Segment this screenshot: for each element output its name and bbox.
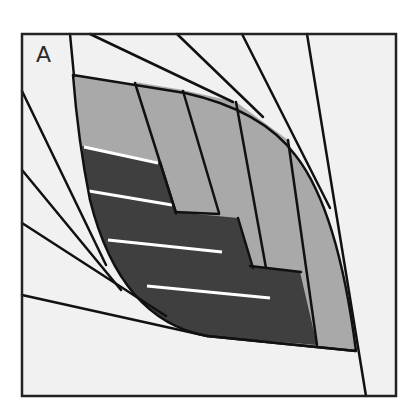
quilt-block-diagram — [0, 0, 414, 412]
panel-label: A — [36, 44, 51, 66]
